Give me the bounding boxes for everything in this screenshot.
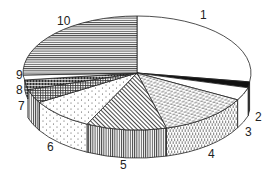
label-slice-1: 1	[200, 8, 207, 22]
label-slice-5: 5	[120, 158, 127, 172]
label-slice-10: 10	[57, 14, 71, 28]
label-slice-8: 8	[16, 83, 23, 97]
label-slice-9: 9	[16, 68, 23, 82]
label-slice-2: 2	[255, 110, 262, 124]
pie-top	[23, 16, 251, 130]
label-slice-3: 3	[245, 125, 252, 139]
slice-1	[137, 16, 251, 82]
pie-chart-3d: 1 2 3 4 5 6 7 8 9 10	[0, 0, 273, 174]
slice-10	[23, 16, 137, 75]
label-slice-6: 6	[47, 140, 54, 154]
label-slice-7: 7	[18, 99, 25, 113]
label-slice-4: 4	[208, 147, 215, 161]
